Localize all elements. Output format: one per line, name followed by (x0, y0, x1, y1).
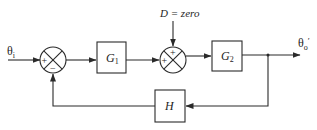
output-label: θo′ (298, 36, 310, 52)
block-g2: G2 (212, 41, 242, 71)
sum1-plus-sign: + (42, 55, 48, 66)
h-to-sum1-arrow (53, 74, 155, 106)
block-h: H (155, 90, 185, 122)
summing-junction-2: + + (160, 47, 186, 73)
sum2-top-plus-sign: + (170, 47, 176, 58)
sum2-left-plus-sign: + (162, 55, 168, 66)
summing-junction-1: + − (40, 47, 66, 74)
block-g1: G1 (97, 42, 126, 73)
block-diagram: θi + − G1 D = zero + + G2 (0, 0, 317, 130)
sum1-minus-sign: − (50, 63, 56, 74)
input-label: θi (7, 44, 16, 60)
disturbance-label: D = zero (159, 7, 200, 19)
svg-text:H: H (164, 99, 175, 113)
